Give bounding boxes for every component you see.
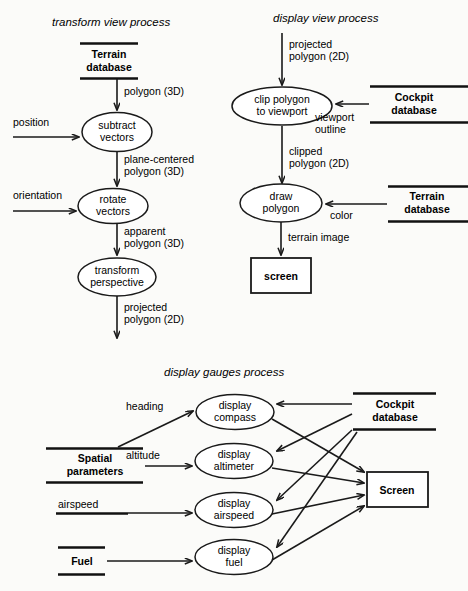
store-terrain-db-line1: Terrain <box>92 48 127 60</box>
flow-arrow-altimeter-to-screen <box>272 468 364 483</box>
flow-label-projected-in-1: projected <box>289 38 332 50</box>
section-title-display-view: display view process <box>273 12 379 24</box>
flow-label-position: position <box>13 116 49 128</box>
store-cockpit-db-3-line2: database <box>372 411 418 423</box>
process-rotate-vectors: rotate vectors <box>78 189 148 224</box>
terminator-screen-lower: screen <box>251 258 311 293</box>
flow-label-airspeed: airspeed <box>58 498 98 510</box>
flow-label-plane-centered-2: polygon (3D) <box>124 165 184 177</box>
flow-arrow-cockpit-to-altimeter <box>277 414 352 451</box>
flow-label-projected-in-2: polygon (2D) <box>289 50 349 62</box>
process-display-airspeed-line2: airspeed <box>214 509 254 521</box>
process-transform-perspective: transform perspective <box>78 258 156 296</box>
store-spatial-parameters-line1: Spatial <box>78 452 113 464</box>
process-display-compass-line2: compass <box>214 411 256 423</box>
store-cockpit-db-line1: Cockpit <box>395 91 434 103</box>
flow-label-viewport-outline-1: viewport <box>315 111 354 123</box>
dataflow-diagram-svg: transform view process Terrain database … <box>0 0 468 591</box>
section-title-transform-view: transform view process <box>52 16 170 28</box>
store-cockpit-db-3: Cockpit database <box>353 394 436 430</box>
process-display-airspeed-line1: display <box>218 497 251 509</box>
store-cockpit-db-3-line1: Cockpit <box>376 398 415 410</box>
process-display-compass-line1: display <box>219 399 252 411</box>
flow-label-color: color <box>330 209 353 221</box>
flow-label-clipped-2: polygon (2D) <box>289 157 349 169</box>
terminator-screen-lower-label: screen <box>264 270 298 282</box>
store-terrain-db-2: Terrain database <box>388 187 468 222</box>
store-cockpit-db-line2: database <box>391 104 437 116</box>
process-subtract-vectors-line1: subtract <box>98 119 135 131</box>
store-cockpit-db: Cockpit database <box>370 87 468 123</box>
process-draw-polygon: draw polygon <box>240 184 322 222</box>
process-subtract-vectors-line2: vectors <box>100 131 134 143</box>
store-terrain-db-line2: database <box>86 61 132 73</box>
store-terrain-db: Terrain database <box>80 44 138 79</box>
flow-arrow-airspeed-to-screen <box>272 495 364 514</box>
flow-label-plane-centered-1: plane-centered <box>124 153 194 165</box>
store-fuel: Fuel <box>58 548 105 575</box>
flow-label-apparent-1: apparent <box>124 225 166 237</box>
flow-label-apparent-2: polygon (3D) <box>124 237 184 249</box>
store-terrain-db-2-line1: Terrain <box>410 190 445 202</box>
process-subtract-vectors: subtract vectors <box>82 113 152 152</box>
process-display-fuel-line2: fuel <box>226 556 243 568</box>
flow-label-viewport-outline-2: outline <box>315 123 346 135</box>
flow-arrow-compass-to-screen <box>272 419 364 472</box>
process-display-fuel-line1: display <box>218 544 251 556</box>
process-display-airspeed: display airspeed <box>195 493 273 528</box>
store-spatial-parameters-line2: parameters <box>67 465 124 477</box>
flow-label-projected-out-1: projected <box>124 301 167 313</box>
diagram-canvas: transform view process Terrain database … <box>0 0 468 591</box>
flow-label-terrain-image: terrain image <box>288 231 349 243</box>
process-draw-polygon-line2: polygon <box>263 202 300 214</box>
flow-label-clipped-1: clipped <box>289 145 322 157</box>
process-display-altimeter: display altimeter <box>195 444 273 479</box>
flow-label-orientation: orientation <box>13 189 62 201</box>
process-display-compass: display compass <box>196 395 274 430</box>
terminator-screen-gauges: Screen <box>367 472 428 507</box>
process-draw-polygon-line1: draw <box>270 190 293 202</box>
flow-label-projected-out-2: polygon (2D) <box>124 313 184 325</box>
process-display-altimeter-line1: display <box>218 448 251 460</box>
process-rotate-vectors-line1: rotate <box>100 193 127 205</box>
terminator-screen-gauges-label: Screen <box>379 484 414 496</box>
process-clip-polygon-line2: to viewport <box>257 105 308 117</box>
process-display-altimeter-line2: altimeter <box>214 460 255 472</box>
flow-label-altitude: altitude <box>126 449 160 461</box>
flow-label-heading: heading <box>126 400 164 412</box>
flow-arrow-heading <box>118 411 193 447</box>
store-fuel-label: Fuel <box>71 555 93 567</box>
flow-label-polygon-3d: polygon (3D) <box>124 85 184 97</box>
process-transform-perspective-line1: transform <box>95 264 140 276</box>
process-clip-polygon-line1: clip polygon <box>254 93 310 105</box>
flow-arrow-cockpit-to-airspeed <box>277 430 352 500</box>
process-rotate-vectors-line2: vectors <box>96 205 130 217</box>
process-display-fuel: display fuel <box>195 540 273 575</box>
store-terrain-db-2-line2: database <box>404 203 450 215</box>
process-transform-perspective-line2: perspective <box>90 276 144 288</box>
section-title-display-gauges: display gauges process <box>164 366 284 378</box>
